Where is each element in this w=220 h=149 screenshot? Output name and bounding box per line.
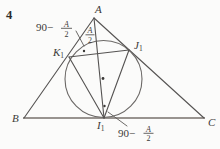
point-j1-subscript: 1 bbox=[139, 44, 143, 53]
vertex-b-label: B bbox=[12, 112, 19, 124]
left-annotation-prefix: 90− bbox=[36, 21, 53, 33]
point-k1-subscript: 1 bbox=[60, 51, 64, 60]
apex-fraction-denominator: 2 bbox=[88, 36, 92, 45]
angle-dot-k1 bbox=[83, 50, 85, 52]
apex-fraction-numerator: A bbox=[87, 26, 93, 35]
left-annotation-denominator: 2 bbox=[65, 30, 69, 39]
chord-j1-i1 bbox=[104, 50, 129, 118]
vertex-c-label: C bbox=[208, 116, 216, 128]
left-angle-annotation: 90− A 2 bbox=[36, 20, 72, 39]
figure-number: 4 bbox=[6, 8, 13, 22]
triangle-side-ac bbox=[94, 18, 204, 118]
bottom-angle-annotation: 90− A 2 bbox=[118, 125, 154, 144]
point-j1-label: J1 bbox=[134, 39, 143, 53]
bottom-annotation-prefix: 90− bbox=[118, 127, 135, 139]
bottom-annotation-numerator: A bbox=[145, 125, 151, 134]
bottom-annotation-denominator: 2 bbox=[147, 134, 151, 143]
point-i1-subscript: 1 bbox=[101, 124, 105, 133]
angle-dot-i1 bbox=[103, 105, 105, 107]
incenter-dot bbox=[102, 77, 105, 80]
geometry-diagram: 4 A B C K1 J1 I1 A 2 90− A 2 90− A 2 bbox=[0, 0, 220, 149]
figure-canvas: 4 A B C K1 J1 I1 A 2 90− A 2 90− A 2 bbox=[0, 0, 220, 149]
point-i1-label: I1 bbox=[96, 119, 105, 133]
triangle-side-ab bbox=[24, 18, 94, 118]
vertex-a-label: A bbox=[94, 3, 102, 15]
point-k1-label: K1 bbox=[52, 46, 64, 60]
left-annotation-numerator: A bbox=[63, 20, 69, 29]
chord-k1-j1 bbox=[69, 50, 129, 57]
